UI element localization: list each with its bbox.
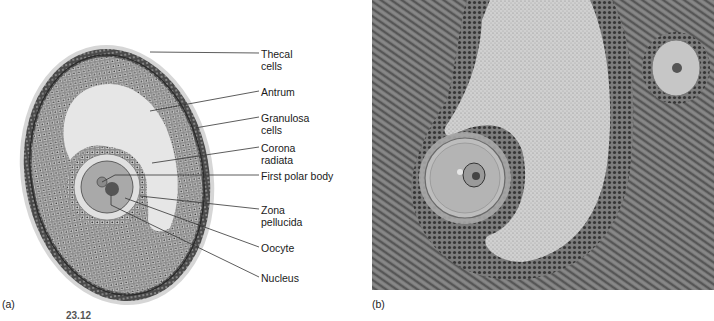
panel-b-micrograph bbox=[372, 0, 714, 290]
label-nucleus: Nucleus bbox=[261, 272, 299, 284]
label-zona-pellucida: Zona pellucida bbox=[261, 204, 302, 228]
label-first-polar-body: First polar body bbox=[261, 170, 333, 182]
label-granulosa-cells: Granulosa cells bbox=[261, 112, 309, 136]
label-corona-radiata: Corona radiata bbox=[261, 142, 295, 166]
label-thecal-cells: Thecal cells bbox=[261, 48, 293, 72]
micrograph-image bbox=[372, 0, 714, 290]
panel-a-letter: (a) bbox=[2, 298, 15, 310]
nucleus bbox=[105, 182, 119, 196]
panel-a-diagram: Thecal cells Antrum Granulosa cells Coro… bbox=[0, 0, 372, 318]
panel-b-letter: (b) bbox=[372, 298, 385, 310]
label-oocyte: Oocyte bbox=[261, 242, 294, 254]
follicle-diagram bbox=[0, 0, 372, 318]
label-antrum: Antrum bbox=[261, 86, 295, 98]
figure-number: 23.12 bbox=[66, 310, 91, 321]
